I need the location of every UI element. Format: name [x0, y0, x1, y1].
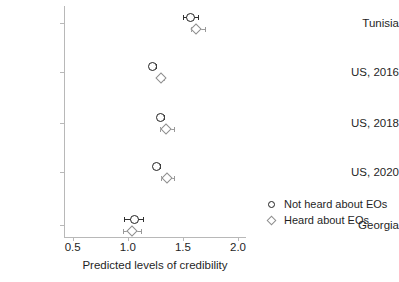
credibility-dot-plot: TunisiaUS, 2016US, 2018US, 2020Georgia 0… — [0, 0, 399, 282]
y-tick-label: US, 2016 — [339, 66, 399, 78]
data-point-circle — [156, 113, 165, 122]
data-point-diamond — [155, 72, 166, 83]
error-bar-cap — [156, 64, 157, 69]
x-tick-label: 1.5 — [163, 241, 203, 254]
error-bar-cap — [124, 217, 125, 222]
y-tick-label: Tunisia — [339, 17, 399, 29]
legend-label: Not heard about EOs — [280, 198, 387, 211]
error-bar-cap — [174, 176, 175, 181]
legend-item-not-heard: Not heard about EOs — [262, 196, 387, 212]
circle-marker-icon — [262, 201, 280, 208]
x-axis-title: Predicted levels of credibility — [64, 258, 246, 272]
x-tick-label: 0.5 — [53, 241, 93, 254]
legend-item-heard: Heard about EOs — [262, 212, 387, 228]
error-bar-cap — [183, 15, 184, 20]
data-point-diamond — [190, 23, 201, 34]
x-tick-label: 2.0 — [218, 241, 258, 254]
x-axis-line — [64, 237, 246, 238]
error-bar-cap — [123, 229, 124, 234]
y-tick — [60, 172, 64, 173]
y-tick — [60, 72, 64, 73]
y-tick — [60, 225, 64, 226]
data-point-circle — [130, 215, 139, 224]
error-bar-cap — [174, 127, 175, 132]
legend: Not heard about EOs Heard about EOs — [262, 196, 387, 228]
y-tick-label: US, 2020 — [339, 166, 399, 178]
data-point-circle — [152, 162, 161, 171]
data-point-circle — [186, 13, 195, 22]
y-tick — [60, 23, 64, 24]
data-point-circle — [148, 62, 157, 71]
error-bar-cap — [205, 27, 206, 32]
error-bar-cap — [198, 15, 199, 20]
data-point-diamond — [161, 123, 172, 134]
y-tick — [60, 123, 64, 124]
data-point-diamond — [162, 172, 173, 183]
data-point-diamond — [127, 225, 138, 236]
diamond-marker-icon — [262, 217, 280, 224]
error-bar-cap — [143, 217, 144, 222]
y-axis-line — [64, 6, 65, 237]
y-tick-label: US, 2018 — [339, 117, 399, 129]
error-bar-cap — [141, 229, 142, 234]
x-tick-label: 1.0 — [108, 241, 148, 254]
legend-label: Heard about EOs — [280, 214, 369, 227]
